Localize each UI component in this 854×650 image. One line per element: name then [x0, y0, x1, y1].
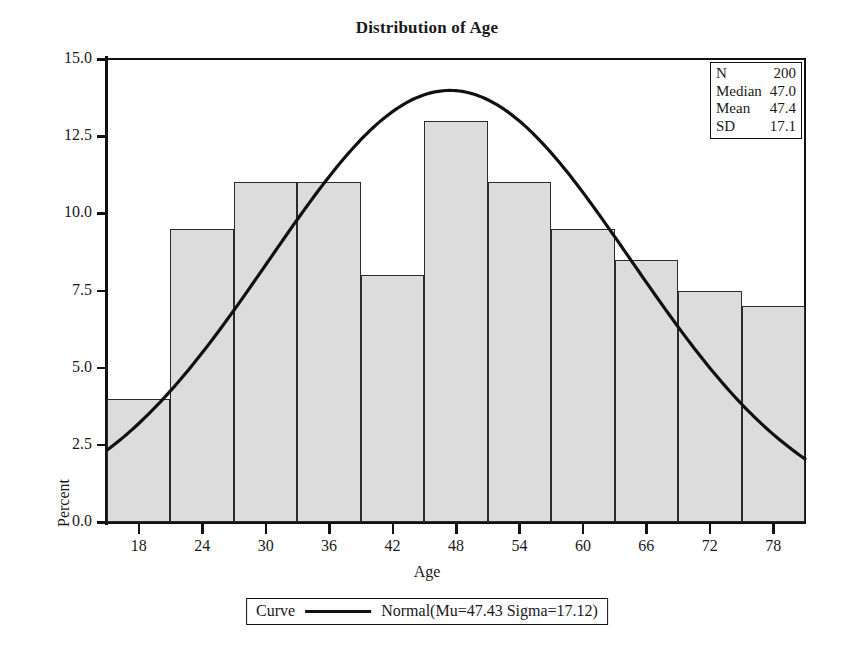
y-axis-tick-label: 10.0 — [34, 204, 92, 220]
legend-line-swatch — [305, 610, 371, 613]
histogram-bar — [170, 229, 233, 522]
legend-key-label: Curve — [256, 602, 295, 620]
x-axis-tick-label: 60 — [558, 537, 608, 555]
stats-table: N200Median47.0Mean47.4SD17.1 — [716, 65, 796, 135]
x-axis-tick — [772, 523, 775, 534]
y-axis-tick — [97, 521, 107, 524]
x-axis-tick-label: 18 — [114, 537, 164, 555]
x-axis-tick-label: 36 — [304, 537, 354, 555]
histogram-bar — [488, 182, 551, 522]
stats-box: N200Median47.0Mean47.4SD17.1 — [710, 62, 802, 139]
histogram-bar — [234, 182, 297, 522]
histogram-bar — [615, 260, 678, 522]
y-axis-title-wrap: Percent — [40, 230, 60, 290]
stats-row-key: Mean — [716, 100, 770, 118]
stats-row: Median47.0 — [716, 83, 796, 101]
histogram-bar — [551, 229, 614, 522]
x-axis-tick — [455, 523, 458, 534]
x-axis-tick — [201, 523, 204, 534]
y-axis-tick — [97, 290, 107, 293]
stats-row-value: 17.1 — [770, 118, 796, 136]
histogram-bar — [361, 275, 424, 522]
stats-row-key: Median — [716, 83, 770, 101]
stats-row-value: 47.0 — [770, 83, 796, 101]
x-axis-tick — [328, 523, 331, 534]
legend: Curve Normal(Mu=47.43 Sigma=17.12) — [246, 598, 608, 625]
x-axis-tick — [709, 523, 712, 534]
stats-row-key: N — [716, 65, 770, 83]
stats-row-key: SD — [716, 118, 770, 136]
x-axis-tick — [645, 523, 648, 534]
x-axis-tick — [265, 523, 268, 534]
histogram-bar — [742, 306, 805, 522]
y-axis-tick-label: 5.0 — [34, 359, 92, 375]
page-title: Distribution of Age — [0, 18, 854, 38]
y-axis-tick — [97, 212, 107, 215]
x-axis-tick — [392, 523, 395, 534]
y-axis-tick — [97, 367, 107, 370]
stats-row: SD17.1 — [716, 118, 796, 136]
x-axis-tick — [138, 523, 141, 534]
histogram-bar — [297, 182, 360, 522]
histogram-bar — [678, 291, 741, 523]
x-axis-tick-label: 54 — [494, 537, 544, 555]
stats-row-value: 47.4 — [770, 100, 796, 118]
stats-row-value: 200 — [770, 65, 796, 83]
histogram-bar — [107, 399, 170, 522]
histogram-figure: Distribution of Age 0.02.55.07.510.012.5… — [0, 0, 854, 650]
x-axis-tick-label: 24 — [177, 537, 227, 555]
x-axis-tick-label: 30 — [241, 537, 291, 555]
x-axis-tick — [582, 523, 585, 534]
x-axis-title: Age — [0, 563, 854, 581]
x-axis-tick-label: 78 — [748, 537, 798, 555]
y-axis-tick — [97, 58, 107, 61]
y-axis-tick-label: 12.5 — [34, 127, 92, 143]
plot-area — [107, 59, 805, 522]
x-axis-tick-label: 72 — [685, 537, 735, 555]
x-axis-tick-label: 48 — [431, 537, 481, 555]
legend-series-label: Normal(Mu=47.43 Sigma=17.12) — [381, 602, 598, 620]
histogram-bar — [424, 121, 487, 522]
x-axis-tick-label: 42 — [368, 537, 418, 555]
y-axis-tick — [97, 135, 107, 138]
x-axis-tick-label: 66 — [621, 537, 671, 555]
y-axis-tick-label: 15.0 — [34, 50, 92, 66]
y-axis-title: Percent — [55, 433, 73, 573]
y-axis-tick — [97, 444, 107, 447]
stats-row: Mean47.4 — [716, 100, 796, 118]
x-axis-tick — [518, 523, 521, 534]
stats-row: N200 — [716, 65, 796, 83]
